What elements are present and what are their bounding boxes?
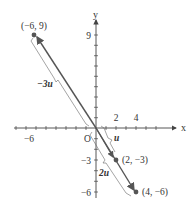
point-label-4-neg6: (4, −6) [142, 187, 168, 198]
coordinate-plane: x −6 2 4 [0, 0, 192, 211]
x-tick-label-2: 2 [114, 113, 119, 123]
x-tick-label-4: 4 [134, 113, 139, 123]
origin-label: O [84, 134, 91, 144]
label-u: u [114, 133, 119, 143]
x-axis-label: x [181, 122, 186, 133]
point-4-neg6 [134, 190, 139, 195]
point-label-neg6-9: (−6, 9) [21, 21, 47, 32]
y-axis-label: y [93, 9, 98, 20]
label-neg3u: −3u [37, 79, 53, 89]
x-tick-label-neg6: −6 [24, 134, 34, 144]
y-axis: y 9 −3 −6 O [81, 9, 98, 198]
point-2-neg3 [114, 158, 119, 163]
vector-neg3u: −3u [31, 37, 96, 128]
y-tick-label-neg3: −3 [81, 156, 91, 166]
label-2u: 2u [98, 168, 109, 178]
point-neg6-9 [32, 33, 37, 38]
x-axis: x −6 2 4 [14, 113, 186, 144]
vector-u: u [96, 126, 119, 157]
vector-diagram: x −6 2 4 [0, 0, 192, 211]
point-label-2-neg3: (2, −3) [122, 155, 148, 166]
y-tick-label-neg6: −6 [81, 188, 91, 198]
y-tick-label-9: 9 [86, 31, 91, 41]
